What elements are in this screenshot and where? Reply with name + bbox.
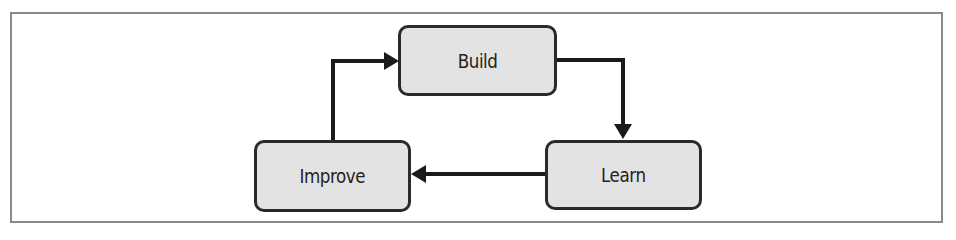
arrowhead-left-icon: [411, 165, 426, 183]
arrowhead-right-icon: [384, 52, 399, 70]
node-build-label: Build: [458, 50, 498, 72]
node-learn: Learn: [545, 140, 702, 210]
node-improve-label: Improve: [300, 165, 366, 187]
node-build: Build: [398, 25, 557, 96]
node-improve: Improve: [254, 140, 411, 212]
edge-build-to-learn: [557, 60, 632, 139]
arrowhead-down-icon: [614, 124, 632, 139]
node-learn-label: Learn: [601, 164, 646, 186]
edge-learn-to-improve: [411, 165, 545, 183]
edge-improve-to-build: [333, 52, 399, 140]
